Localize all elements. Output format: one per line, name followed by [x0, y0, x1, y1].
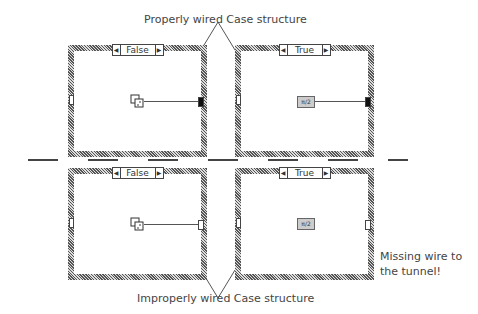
note-missing-wire-line1: Missing wire to: [380, 250, 462, 263]
divider-dash: [268, 159, 298, 161]
divider-dash: [88, 159, 118, 161]
output-tunnel[interactable]: [365, 97, 371, 107]
selector-terminal[interactable]: [69, 95, 74, 105]
output-tunnel[interactable]: [198, 97, 204, 107]
output-tunnel-hollow[interactable]: [365, 220, 371, 230]
increment-arrow-icon[interactable]: ▶: [322, 168, 330, 178]
case-label: True: [288, 168, 322, 178]
pi-constant-icon[interactable]: π/2: [297, 218, 315, 230]
case-label: True: [288, 45, 322, 55]
case-structure-true-wired[interactable]: ◀ True ▶ π/2: [235, 45, 374, 157]
pi-constant-icon[interactable]: π/2: [297, 96, 315, 108]
wire: [144, 101, 201, 102]
decrement-arrow-icon[interactable]: ◀: [113, 168, 121, 178]
case-structure-false-wired[interactable]: ◀ False ▶: [68, 45, 207, 157]
case-structure-false-improper[interactable]: ◀ False ▶: [68, 168, 207, 280]
note-missing-wire-line2: the tunnel!: [380, 265, 441, 278]
case-selector[interactable]: ◀ False ▶: [112, 167, 164, 179]
decrement-arrow-icon[interactable]: ◀: [113, 45, 121, 55]
case-selector[interactable]: ◀ True ▶: [279, 167, 331, 179]
increment-arrow-icon[interactable]: ▶: [155, 168, 163, 178]
caption-properly-wired: Properly wired Case structure: [144, 13, 307, 26]
case-structure-true-missing-wire[interactable]: ◀ True ▶ π/2: [235, 168, 374, 280]
divider-dash: [208, 159, 238, 161]
caption-improperly-wired: Improperly wired Case structure: [137, 292, 314, 305]
wire: [144, 224, 201, 225]
output-tunnel-hollow[interactable]: [198, 220, 204, 230]
wire: [315, 101, 368, 102]
dice-icon[interactable]: [130, 217, 144, 231]
dice-icon[interactable]: [130, 94, 144, 108]
case-selector[interactable]: ◀ False ▶: [112, 44, 164, 56]
divider-dash: [148, 159, 178, 161]
divider-dash: [28, 159, 58, 161]
divider-dash: [328, 159, 358, 161]
case-label: False: [121, 45, 155, 55]
selector-terminal[interactable]: [69, 218, 74, 228]
selector-terminal[interactable]: [236, 218, 241, 228]
increment-arrow-icon[interactable]: ▶: [155, 45, 163, 55]
decrement-arrow-icon[interactable]: ◀: [280, 45, 288, 55]
case-label: False: [121, 168, 155, 178]
case-selector[interactable]: ◀ True ▶: [279, 44, 331, 56]
selector-terminal[interactable]: [236, 95, 241, 105]
increment-arrow-icon[interactable]: ▶: [322, 45, 330, 55]
decrement-arrow-icon[interactable]: ◀: [280, 168, 288, 178]
divider-dash: [388, 159, 408, 161]
